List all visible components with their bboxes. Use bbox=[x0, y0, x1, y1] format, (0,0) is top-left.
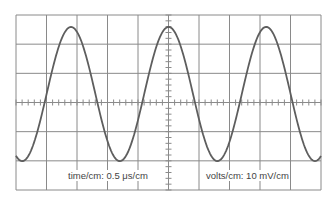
volts-scale-label: volts/cm: 10 mV/cm bbox=[205, 170, 290, 181]
time-scale-label: time/cm: 0.5 μs/cm bbox=[67, 170, 149, 181]
